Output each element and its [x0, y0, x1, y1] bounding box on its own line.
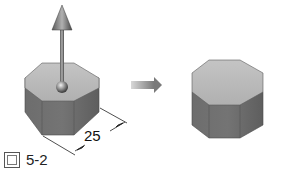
figure-glyph-icon [4, 152, 20, 168]
figure-canvas [0, 0, 289, 175]
caption-label: 5-2 [26, 151, 48, 168]
figure-caption: 5-2 [4, 151, 48, 168]
right-arrow-icon [131, 77, 162, 93]
dimension-value: 25 [84, 127, 101, 144]
right-octagonal-prism [192, 60, 263, 138]
